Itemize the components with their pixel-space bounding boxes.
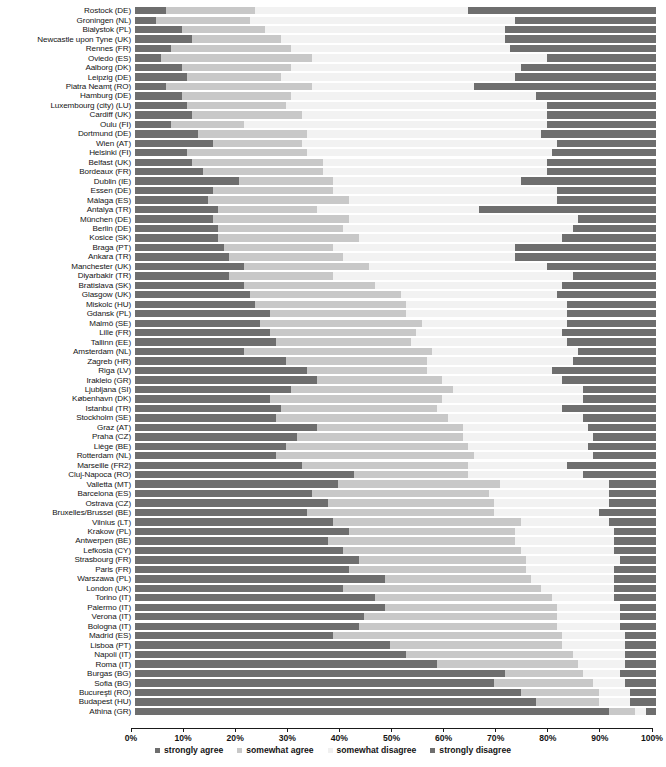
bar-segment-strongly-agree (135, 17, 156, 24)
bar-segment-somewhat-agree (250, 291, 401, 298)
x-axis-tick (287, 728, 288, 732)
bar-segment-somewhat-agree (317, 424, 463, 431)
bar-segment-strongly-agree (135, 140, 213, 147)
bar-row: Groningen (NL) (0, 15, 666, 24)
bar-stack (135, 575, 656, 582)
bar-segment-somewhat-disagree (312, 83, 474, 90)
bar-segment-strongly-disagree (614, 566, 656, 573)
bar-segment-somewhat-disagree (432, 348, 578, 355)
bar-segment-strongly-agree (135, 73, 187, 80)
bar-segment-strongly-agree (135, 376, 317, 383)
bar-segment-strongly-agree (135, 206, 218, 213)
bar-segment-somewhat-agree (244, 263, 369, 270)
bar-stack (135, 45, 656, 52)
bar-row-label: Ostrava (CZ) (0, 499, 135, 508)
bar-stack (135, 679, 656, 686)
bar-segment-strongly-agree (135, 215, 213, 222)
bar-segment-strongly-disagree (562, 282, 656, 289)
bar-segment-strongly-agree (135, 187, 213, 194)
bar-segment-somewhat-agree (218, 234, 359, 241)
bar-segment-somewhat-disagree (468, 462, 567, 469)
bar-segment-strongly-agree (135, 424, 317, 431)
bar-segment-somewhat-agree (270, 395, 442, 402)
bar-stack (135, 291, 656, 298)
bar-segment-somewhat-disagree (557, 613, 620, 620)
legend-item-strongly-agree[interactable]: strongly agree (155, 745, 223, 755)
bar-segment-strongly-agree (135, 26, 182, 33)
bar-segment-somewhat-disagree (281, 35, 505, 42)
bar-stack (135, 26, 656, 33)
bar-segment-strongly-agree (135, 225, 218, 232)
bar-segment-somewhat-disagree (521, 547, 615, 554)
bar-segment-strongly-disagree (578, 348, 656, 355)
bar-row-label: Burgas (BG) (0, 669, 135, 678)
bar-segment-somewhat-agree (333, 518, 521, 525)
bar-row: Rennes (FR) (0, 44, 666, 53)
bar-segment-strongly-disagree (620, 613, 656, 620)
bar-row-label: Ankara (TR) (0, 252, 135, 261)
bar-stack (135, 253, 656, 260)
bar-segment-somewhat-disagree (291, 45, 510, 52)
bar-segment-strongly-disagree (521, 177, 656, 184)
bar-segment-somewhat-agree (505, 670, 583, 677)
bar-row-label: Essen (DE) (0, 186, 135, 195)
bar-row-label: Irakleio (GR) (0, 376, 135, 385)
bar-segment-somewhat-disagree (406, 301, 568, 308)
bar-row-label: Roma (IT) (0, 660, 135, 669)
bar-segment-strongly-agree (135, 443, 286, 450)
bar-segment-strongly-agree (135, 149, 187, 156)
bar-segment-strongly-agree (135, 499, 328, 506)
bar-segment-strongly-disagree (567, 320, 656, 327)
bar-stack (135, 272, 656, 279)
bar-segment-strongly-disagree (583, 414, 656, 421)
legend-item-somewhat-disagree[interactable]: somewhat disagree (328, 745, 417, 755)
bar-segment-strongly-agree (135, 528, 349, 535)
bar-row-label: Krakow (PL) (0, 527, 135, 536)
bar-segment-strongly-disagree (609, 480, 656, 487)
bar-segment-strongly-disagree (536, 92, 656, 99)
bar-segment-somewhat-disagree (255, 7, 469, 14)
bar-segment-somewhat-disagree (333, 244, 515, 251)
bar-row: Marseille (FR2) (0, 461, 666, 470)
bar-row-label: Malmö (SE) (0, 319, 135, 328)
bar-segment-somewhat-disagree (343, 225, 572, 232)
bar-segment-somewhat-agree (297, 433, 464, 440)
bar-row-label: Lefkosia (CY) (0, 546, 135, 555)
bar-segment-somewhat-disagree (411, 338, 567, 345)
bar-row-label: Leipzig (DE) (0, 73, 135, 82)
bar-segment-somewhat-disagree (291, 64, 520, 71)
legend-item-strongly-disagree[interactable]: strongly disagree (430, 745, 511, 755)
bar-segment-somewhat-disagree (422, 320, 568, 327)
bar-stack (135, 329, 656, 336)
bar-segment-somewhat-agree (239, 177, 333, 184)
bar-stack (135, 395, 656, 402)
bar-row-label: Wien (AT) (0, 139, 135, 148)
bar-segment-somewhat-agree (213, 215, 348, 222)
bar-row: Torino (IT) (0, 593, 666, 602)
bar-segment-somewhat-disagree (468, 471, 583, 478)
bar-row: Athina (GR) (0, 707, 666, 716)
bar-segment-strongly-disagree (505, 35, 656, 42)
bar-row: Aalborg (DK) (0, 63, 666, 72)
bar-segment-somewhat-agree (291, 386, 453, 393)
bar-row-label: Palermo (IT) (0, 603, 135, 612)
bar-row: Bucureşti (RO) (0, 688, 666, 697)
bar-segment-strongly-disagree (609, 518, 656, 525)
bar-segment-somewhat-disagree (635, 708, 645, 715)
bar-segment-strongly-agree (135, 480, 338, 487)
x-axis-tick-label: 90% (591, 733, 608, 743)
bar-segment-somewhat-agree (349, 528, 516, 535)
bar-row: Tallinn (EE) (0, 337, 666, 346)
bar-row-label: Belfast (UK) (0, 158, 135, 167)
bar-stack (135, 405, 656, 412)
bar-segment-somewhat-disagree (448, 414, 583, 421)
bar-segment-strongly-disagree (573, 225, 656, 232)
bar-segment-strongly-disagree (562, 405, 656, 412)
legend-item-somewhat-agree[interactable]: somewhat agree (237, 745, 313, 755)
bar-row: Riga (LV) (0, 366, 666, 375)
bar-stack (135, 64, 656, 71)
chart-plot-area: Rostock (DE)Groningen (NL)Bialystok (PL)… (0, 0, 666, 728)
bar-segment-somewhat-agree (286, 443, 468, 450)
bar-stack (135, 594, 656, 601)
bar-stack (135, 585, 656, 592)
